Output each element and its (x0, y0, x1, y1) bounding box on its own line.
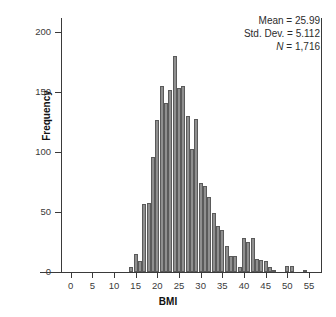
x-axis-line (40, 272, 322, 273)
histogram-figure: Frequency BMI 050100150200 0510152025303… (0, 0, 336, 317)
histogram-bar (303, 270, 307, 272)
y-tick-mark (55, 152, 61, 153)
x-tick-mark (114, 273, 115, 278)
x-tick-mark (92, 273, 93, 278)
mean-text: Mean = 25.99 (244, 14, 320, 27)
y-tick-mark (55, 212, 61, 213)
n-text: N = 1,716 (244, 40, 320, 53)
std-dev-text: Std. Dev. = 5.112 (244, 27, 320, 40)
y-tick-label: 150 (0, 86, 51, 97)
n-value: = 1,716 (284, 41, 320, 52)
x-tick-mark (244, 273, 245, 278)
x-tick-mark (222, 273, 223, 278)
histogram-bars (62, 18, 322, 272)
y-tick-label: 100 (0, 146, 51, 157)
x-tick-label: 55 (294, 280, 324, 291)
histogram-bar (290, 266, 294, 272)
x-tick-mark (309, 273, 310, 278)
y-tick-mark (55, 92, 61, 93)
x-tick-mark (136, 273, 137, 278)
x-tick-mark (201, 273, 202, 278)
statistics-annotation: Mean = 25.99 Std. Dev. = 5.112 N = 1,716 (244, 14, 320, 53)
x-tick-mark (157, 273, 158, 278)
y-tick-label: 200 (0, 26, 51, 37)
x-tick-mark (266, 273, 267, 278)
y-tick-mark (55, 32, 61, 33)
y-axis-label: Frequency (41, 56, 52, 176)
x-tick-mark (287, 273, 288, 278)
x-tick-mark (179, 273, 180, 278)
x-axis-label: BMI (0, 296, 336, 307)
y-tick-label: 0 (0, 266, 51, 277)
x-tick-mark (71, 273, 72, 278)
n-symbol: N (276, 41, 283, 52)
y-tick-label: 50 (0, 206, 51, 217)
histogram-bar (272, 270, 276, 272)
y-tick-mark (55, 272, 61, 273)
